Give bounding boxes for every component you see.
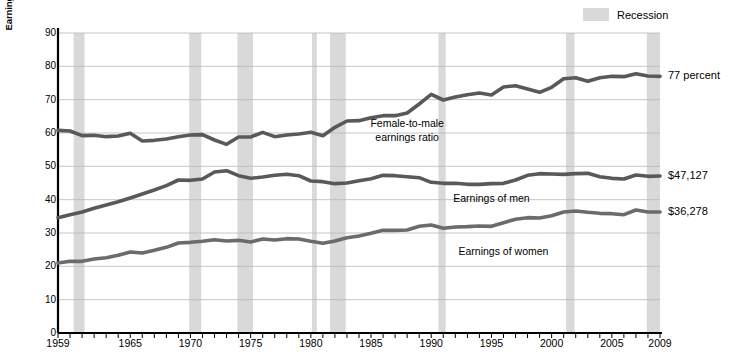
chart-container: Earnings in thousands (2009 dollars), ra… [0,0,733,363]
women-end-annotation: $36,278 [668,205,708,217]
men-end-annotation: $47,127 [668,169,708,181]
plot-area [0,0,733,363]
recession-band [74,33,85,333]
ratio-inline-line1: Female-to-male [370,117,444,129]
recession-band [189,33,201,333]
men-inline-label: Earnings of men [441,191,541,205]
recession-band [237,33,253,333]
ratio-end-annotation: 77 percent [668,69,720,81]
women-inline-label: Earnings of women [448,244,558,258]
ratio-inline-line2: earnings ratio [375,131,439,143]
ratio-inline-label: Female-to-male earnings ratio [352,116,462,144]
